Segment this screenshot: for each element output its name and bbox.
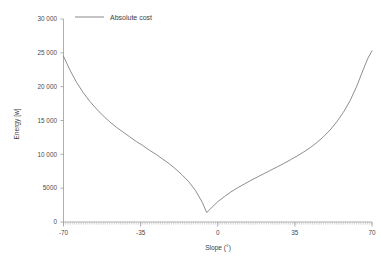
x-tick-label: -70 <box>59 229 69 236</box>
line-chart-svg: 0500010 00015 00020 00025 00030 000 -70-… <box>0 0 381 264</box>
x-tick-label: 35 <box>291 229 299 236</box>
y-tick-label: 30 000 <box>37 15 57 22</box>
x-tick-label: 0 <box>216 229 220 236</box>
chart-container: 0500010 00015 00020 00025 00030 000 -70-… <box>0 0 381 264</box>
y-tick-label: 15 000 <box>37 117 57 124</box>
series-line-absolute-cost <box>64 51 373 213</box>
y-tick-label: 5000 <box>43 184 58 191</box>
x-axis-tick-labels: -70-3503570 <box>59 229 376 236</box>
y-axis-title: Energy [w] <box>13 108 21 139</box>
x-tick-label: -35 <box>136 229 146 236</box>
legend-label-absolute-cost: Absolute cost <box>110 14 152 21</box>
y-axis-ticks <box>61 19 64 222</box>
x-axis-title: Slope (°) <box>205 244 231 252</box>
y-tick-label: 20 000 <box>37 83 57 90</box>
y-tick-label: 0 <box>53 218 57 225</box>
y-tick-label: 10 000 <box>37 151 57 158</box>
data-series-group <box>64 51 373 213</box>
legend: Absolute cost <box>75 14 152 21</box>
x-tick-label: 70 <box>368 229 376 236</box>
y-tick-label: 25 000 <box>37 49 57 56</box>
y-axis-tick-labels: 0500010 00015 00020 00025 00030 000 <box>37 15 57 225</box>
